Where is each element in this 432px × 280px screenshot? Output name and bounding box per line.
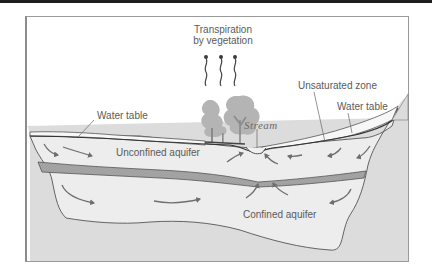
confined-aquifer-label: Confined aquifer <box>243 209 316 220</box>
transpiration-arrows <box>205 56 237 86</box>
unsaturated-zone-label: Unsaturated zone <box>298 80 377 91</box>
right-slope <box>392 94 408 120</box>
transpiration-label-line2: by vegetation <box>186 35 260 46</box>
unconfined-aquifer-label: Unconfined aquifer <box>116 147 200 158</box>
water-table-label-right: Water table <box>337 101 388 112</box>
stream-label: Stream <box>244 120 278 131</box>
transpiration-label: Transpiration by vegetation <box>186 24 260 46</box>
transpiration-label-line1: Transpiration <box>186 24 260 35</box>
water-table-label-left: Water table <box>97 110 148 121</box>
